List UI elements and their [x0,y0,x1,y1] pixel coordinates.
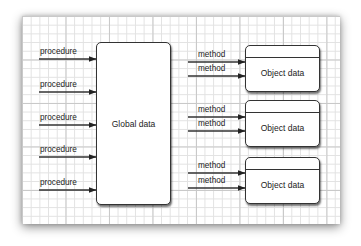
object-data-label: Object data [246,180,319,190]
procedure-label: procedure [40,178,77,187]
object-data-label: Object data [246,123,319,133]
procedure-label: procedure [40,113,77,122]
procedure-label: procedure [40,145,77,154]
method-label: method [198,105,225,114]
object-box: Object data [245,157,320,204]
object-data-label: Object data [246,68,319,78]
global-data-label: Global data [97,119,170,129]
method-label: method [198,64,225,73]
procedure-label: procedure [40,47,77,56]
method-label: method [198,161,225,170]
method-label: method [198,119,225,128]
object-divider [246,57,319,58]
procedure-label: procedure [40,80,77,89]
object-divider [246,169,319,170]
global-data-box: Global data [96,42,171,205]
method-label: method [198,176,225,185]
method-label: method [198,50,225,59]
object-divider [246,112,319,113]
object-box: Object data [245,45,320,92]
object-box: Object data [245,100,320,147]
